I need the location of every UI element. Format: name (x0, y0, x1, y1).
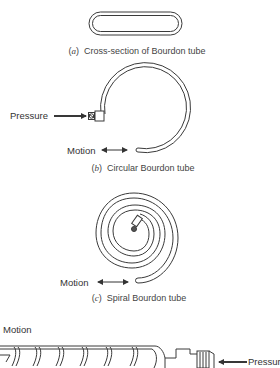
motion-label: Motion (67, 145, 96, 156)
cross-section-shape (89, 12, 182, 35)
caption-a: (a) Cross-section of Bourdon tube (68, 46, 205, 57)
pressure-label: Pressure (248, 356, 280, 367)
caption-text: Circular Bourdon tube (107, 163, 195, 173)
caption-c: (c) Spiral Bourdon tube (92, 293, 187, 304)
caption-b: (b) Circular Bourdon tube (91, 163, 194, 174)
circular-bourdon-tube (89, 63, 191, 153)
pressure-label: Pressure (10, 110, 48, 121)
caption-text: Spiral Bourdon tube (107, 293, 187, 303)
helical-bourdon-tube (0, 346, 214, 368)
spiral-bourdon-tube (96, 193, 178, 283)
motion-label: Motion (60, 277, 89, 288)
motion-label: Motion (3, 324, 32, 335)
caption-letter: b (94, 163, 99, 173)
caption-letter: a (71, 46, 76, 56)
caption-text: Cross-section of Bourdon tube (84, 46, 206, 56)
caption-letter: c (95, 293, 99, 303)
